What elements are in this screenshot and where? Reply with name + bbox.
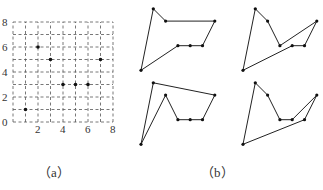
grid-figure-a: [13, 22, 113, 122]
polygon-1: [139, 7, 216, 72]
polygon-4: [241, 81, 318, 146]
x-tick-label: 6: [85, 123, 91, 135]
x-tick-label: 8: [110, 123, 116, 135]
data-point: [86, 83, 90, 87]
y-tick-label: 8: [2, 16, 8, 28]
data-point: [99, 58, 103, 62]
x-tick-label: 4: [60, 123, 66, 135]
axis-tick-labels: 246802468: [2, 16, 116, 135]
y-tick-label: 2: [2, 91, 8, 103]
polygon-3: [139, 81, 216, 146]
caption-b: （b）: [201, 162, 234, 181]
polygon-2: [241, 7, 318, 72]
data-point: [24, 108, 28, 112]
caption-a: （a）: [38, 162, 70, 181]
polygon-set-b: [139, 7, 318, 146]
y-tick-label: 0: [2, 116, 8, 128]
data-point: [61, 83, 65, 87]
data-point: [36, 45, 40, 49]
y-tick-label: 6: [2, 41, 8, 53]
y-tick-label: 4: [2, 66, 8, 78]
data-point: [74, 83, 78, 87]
data-point: [49, 58, 53, 62]
x-tick-label: 2: [35, 123, 41, 135]
